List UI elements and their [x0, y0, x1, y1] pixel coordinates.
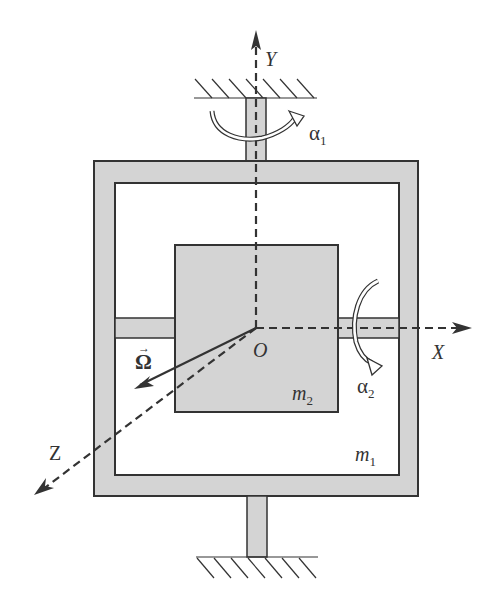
alpha1-label: α1	[309, 121, 327, 148]
z-axis-arrowhead	[34, 478, 54, 495]
left-axle	[115, 318, 176, 338]
z-axis-label: Z	[49, 442, 61, 464]
omega-arrowhead	[134, 376, 154, 389]
alpha2-label: α2	[357, 374, 375, 401]
omega-vector-accent: →	[138, 341, 150, 355]
origin-label: O	[253, 339, 267, 361]
bottom-ground-support	[196, 557, 318, 578]
m1-label: m1	[355, 443, 376, 469]
gimbal-diagram: Y X Z O α1 α2 m2 m1 Ω →	[0, 0, 500, 608]
bottom-shaft	[247, 496, 267, 557]
y-axis-label: Y	[265, 48, 278, 70]
x-axis-label: X	[431, 341, 445, 363]
